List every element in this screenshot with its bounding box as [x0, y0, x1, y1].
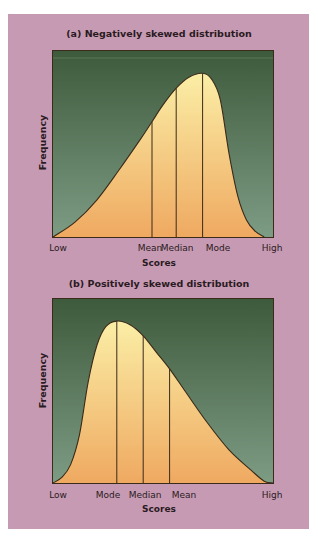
chart-b-ylabel: Frequency	[37, 341, 48, 421]
chart-b-tick-high: High	[262, 490, 283, 500]
chart-a-tick-low: Low	[49, 243, 67, 253]
chart-b-tick-mean: Mean	[172, 490, 197, 500]
chart-a-ylabel: Frequency	[37, 103, 48, 183]
chart-a-tick-high: High	[262, 243, 283, 253]
chart-a-title: (a) Negatively skewed distribution	[0, 28, 318, 39]
chart-a-tick-median: Median	[161, 243, 194, 253]
chart-a-plot	[52, 50, 274, 238]
chart-b-plot	[52, 298, 274, 484]
chart-a-tick-mode: Mode	[206, 243, 231, 253]
chart-a-xlabel: Scores	[0, 258, 318, 268]
chart-b-tick-mode: Mode	[96, 490, 121, 500]
chart-b-xlabel: Scores	[0, 504, 318, 514]
chart-a-tick-mean: Mean	[138, 243, 163, 253]
chart-b-tick-low: Low	[49, 490, 67, 500]
chart-b-title: (b) Positively skewed distribution	[0, 278, 318, 289]
chart-b-tick-median: Median	[129, 490, 162, 500]
